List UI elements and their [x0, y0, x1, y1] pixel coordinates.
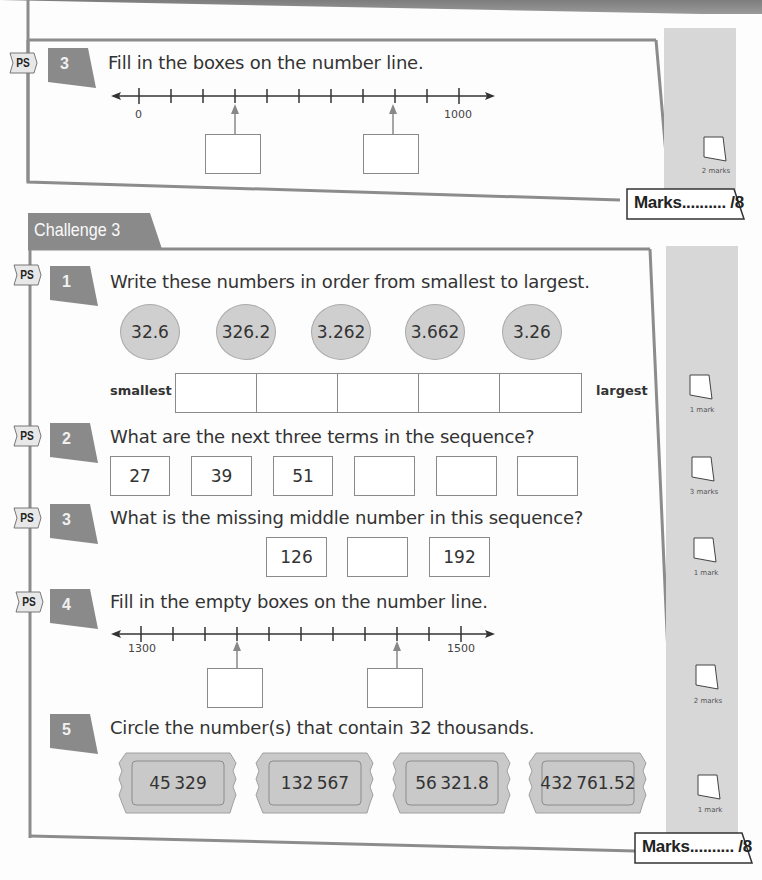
- sequence-answer-box[interactable]: [347, 537, 408, 577]
- question-text: Fill in the boxes on the number line.: [108, 52, 424, 73]
- question-number-badge: 3: [50, 504, 100, 544]
- mark-box[interactable]: [702, 136, 730, 164]
- order-answer-box[interactable]: [337, 373, 419, 413]
- question-number-badge: 3: [48, 48, 98, 88]
- number-bubble: 326.2: [216, 304, 276, 360]
- sequence-term-box: 51: [273, 456, 333, 496]
- order-answer-box[interactable]: [175, 373, 257, 413]
- ps-tag: PS: [12, 264, 42, 286]
- answer-box[interactable]: [367, 668, 423, 708]
- question-text: What is the missing middle number in thi…: [110, 507, 583, 528]
- order-answer-box[interactable]: [499, 373, 582, 413]
- mark-box[interactable]: [696, 774, 724, 802]
- sequence-term-box: 192: [429, 537, 490, 577]
- marks-label: 1 mark: [681, 569, 731, 577]
- marks-label: 1 mark: [685, 806, 735, 814]
- ps-tag: PS: [12, 507, 42, 529]
- answer-box[interactable]: [205, 134, 261, 174]
- number-line-start-label: 0: [135, 108, 142, 121]
- question-number-badge: 2: [50, 423, 100, 463]
- number-bubble: 3.662: [405, 304, 465, 360]
- sequence-answer-box[interactable]: [354, 456, 415, 496]
- sequence-term-box: 126: [266, 537, 327, 577]
- question-number-badge: 1: [50, 266, 100, 306]
- number-line-arrows: [225, 104, 425, 136]
- largest-label: largest: [596, 383, 648, 398]
- mark-box[interactable]: [688, 374, 716, 402]
- marks-label: 1 mark: [677, 406, 727, 414]
- question-text: Circle the number(s) that contain 32 tho…: [110, 717, 534, 738]
- ps-tag: PS: [14, 591, 44, 613]
- sequence-answer-box[interactable]: [436, 456, 497, 496]
- mark-box[interactable]: [694, 664, 722, 692]
- number-line-end-label: 1500: [447, 642, 475, 655]
- mark-box[interactable]: [690, 456, 718, 484]
- smallest-label: smallest: [110, 383, 172, 398]
- marks-label: 2 marks: [683, 697, 733, 705]
- number-bubble: 3.26: [502, 304, 562, 360]
- marks-total: Marks.......... /8: [634, 832, 754, 864]
- mark-box[interactable]: [692, 537, 720, 565]
- number-bubble: 32.6: [120, 304, 180, 360]
- marks-label: 2 marks: [691, 167, 741, 175]
- number-line-start-label: 1300: [128, 642, 156, 655]
- order-answer-box[interactable]: [418, 373, 500, 413]
- ps-tag: PS: [8, 52, 38, 74]
- number-ticket[interactable]: 432 761.52: [528, 751, 648, 815]
- answer-box[interactable]: [207, 668, 263, 708]
- question-text: Write these numbers in order from smalle…: [110, 271, 590, 292]
- number-bubble: 3.262: [311, 304, 371, 360]
- marks-total: Marks.......... /8: [626, 188, 746, 220]
- challenge-title-tab: Challenge 3: [28, 213, 163, 249]
- question-text: What are the next three terms in the seq…: [110, 426, 534, 447]
- number-ticket[interactable]: 132 567: [255, 751, 375, 815]
- sequence-term-box: 39: [191, 456, 252, 496]
- number-ticket[interactable]: 56 321.8: [392, 751, 512, 815]
- sequence-answer-box[interactable]: [517, 456, 578, 496]
- sequence-term-box: 27: [110, 456, 170, 496]
- number-ticket[interactable]: 45 329: [118, 751, 238, 815]
- question-number-badge: 5: [50, 714, 100, 754]
- number-line-end-label: 1000: [444, 108, 472, 121]
- answer-box[interactable]: [363, 134, 419, 174]
- order-answer-box[interactable]: [256, 373, 338, 413]
- question-number-badge: 4: [50, 589, 100, 629]
- question-text: Fill in the empty boxes on the number li…: [110, 591, 488, 612]
- ps-tag: PS: [12, 425, 42, 447]
- marks-label: 3 marks: [679, 488, 729, 496]
